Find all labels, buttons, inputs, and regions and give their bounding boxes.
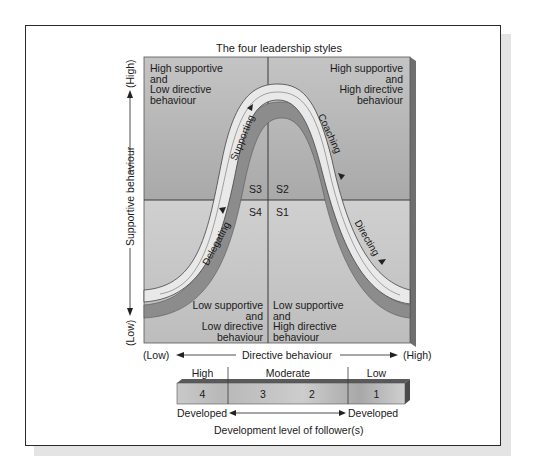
style-code-s4: S4 [249, 206, 262, 218]
dev-group-high-label: High [177, 367, 228, 379]
x-axis-low-label: (Low) [143, 349, 169, 361]
style-code-s2: S2 [276, 183, 289, 195]
quadrant-top-right-label: High supportive and High directive behav… [300, 63, 403, 105]
quadrant-top-left-label: High supportive and Low directive behavi… [150, 63, 223, 105]
dev-level-3: 3 [248, 388, 278, 400]
style-code-s1: S1 [276, 206, 289, 218]
x-axis-title: Directive behaviour [242, 349, 332, 361]
dev-level-1: 1 [348, 388, 405, 400]
dev-level-4: 4 [177, 388, 228, 400]
style-code-s3: S3 [249, 183, 262, 195]
developed-left-label: Developed [177, 407, 227, 419]
y-axis-high-label: (High) [124, 59, 136, 88]
x-axis-high-label: (High) [403, 349, 432, 361]
developed-arrow [229, 410, 346, 416]
y-axis-title: Supportive behaviour [124, 147, 136, 246]
development-caption: Development level of follower(s) [214, 424, 363, 436]
quadrant-bottom-left-label: Low supportive and Low directive behavio… [160, 300, 263, 342]
leadership-diagram-graphic [0, 0, 558, 474]
dev-level-2: 2 [297, 388, 327, 400]
quadrant-bottom-right-label: Low supportive and High directive behavi… [273, 300, 344, 342]
dev-group-moderate-label: Moderate [228, 367, 348, 379]
dev-group-low-label: Low [348, 367, 405, 379]
y-axis-low-label: (Low) [124, 320, 136, 346]
developed-right-label: Developed [348, 407, 398, 419]
